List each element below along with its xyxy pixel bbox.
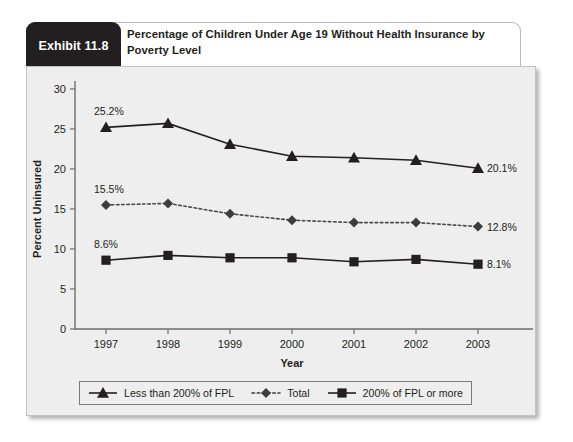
y-tick-label: 15 (54, 203, 66, 215)
series-start-label: 15.5% (94, 183, 124, 195)
legend-label: 200% of FPL or more (363, 387, 463, 399)
y-tick-label: 0 (60, 323, 66, 335)
data-marker-square (411, 255, 420, 264)
x-tick-label: 2000 (280, 338, 304, 350)
data-marker-diamond (349, 218, 359, 228)
x-tick-label: 2003 (466, 338, 490, 350)
legend-item[interactable]: Total (251, 386, 309, 400)
line-chart: 0510152025301997199819992000200120022003… (27, 67, 537, 417)
data-marker-diamond (225, 209, 235, 219)
x-tick-label: 2002 (404, 338, 428, 350)
series-end-label: 20.1% (487, 162, 517, 174)
exhibit-number-tab: Exhibit 11.8 (26, 22, 121, 70)
legend-label: Less than 200% of FPL (124, 387, 234, 399)
data-marker-diamond (163, 198, 173, 208)
y-axis-title: Percent Uninsured (31, 160, 43, 258)
exhibit-page: Exhibit 11.8 Percentage of Children Unde… (0, 0, 573, 442)
data-marker-diamond (261, 388, 271, 398)
data-marker-diamond (287, 215, 297, 225)
legend-label: Total (287, 387, 309, 399)
chart-panel: 0510152025301997199819992000200120022003… (26, 66, 536, 416)
series-start-label: 25.2% (94, 105, 124, 117)
y-tick-label: 25 (54, 123, 66, 135)
data-marker-diamond (101, 200, 111, 210)
y-tick-label: 10 (54, 243, 66, 255)
data-marker-square (349, 257, 358, 266)
series-start-label: 8.6% (94, 238, 118, 250)
data-marker-square (101, 256, 110, 265)
data-marker-diamond (473, 222, 483, 232)
exhibit-number-label: Exhibit 11.8 (39, 39, 109, 53)
data-marker-square (163, 251, 172, 260)
y-tick-label: 5 (60, 283, 66, 295)
exhibit-title: Percentage of Children Under Age 19 With… (127, 27, 512, 58)
legend-glyph-square (327, 386, 357, 400)
data-marker-square (473, 260, 482, 269)
legend-item[interactable]: 200% of FPL or more (327, 386, 463, 400)
data-marker-diamond (411, 218, 421, 228)
x-tick-label: 1997 (94, 338, 118, 350)
data-marker-square (287, 253, 296, 262)
legend-glyph-diamond (251, 386, 281, 400)
data-marker-square (337, 388, 346, 397)
legend-glyph-triangle (88, 386, 118, 400)
x-tick-label: 1999 (218, 338, 242, 350)
x-tick-label: 1998 (156, 338, 180, 350)
x-tick-label: 2001 (342, 338, 366, 350)
x-axis-title: Year (280, 357, 304, 369)
y-tick-label: 30 (54, 83, 66, 95)
chart-legend: Less than 200% of FPLTotal200% of FPL or… (79, 381, 472, 405)
series-end-label: 12.8% (487, 221, 517, 233)
chart-axes (75, 81, 533, 329)
data-marker-square (225, 253, 234, 262)
y-tick-label: 20 (54, 163, 66, 175)
series-end-label: 8.1% (487, 258, 511, 270)
legend-item[interactable]: Less than 200% of FPL (88, 386, 234, 400)
data-marker-triangle (162, 117, 174, 128)
series-line-0 (106, 123, 478, 168)
